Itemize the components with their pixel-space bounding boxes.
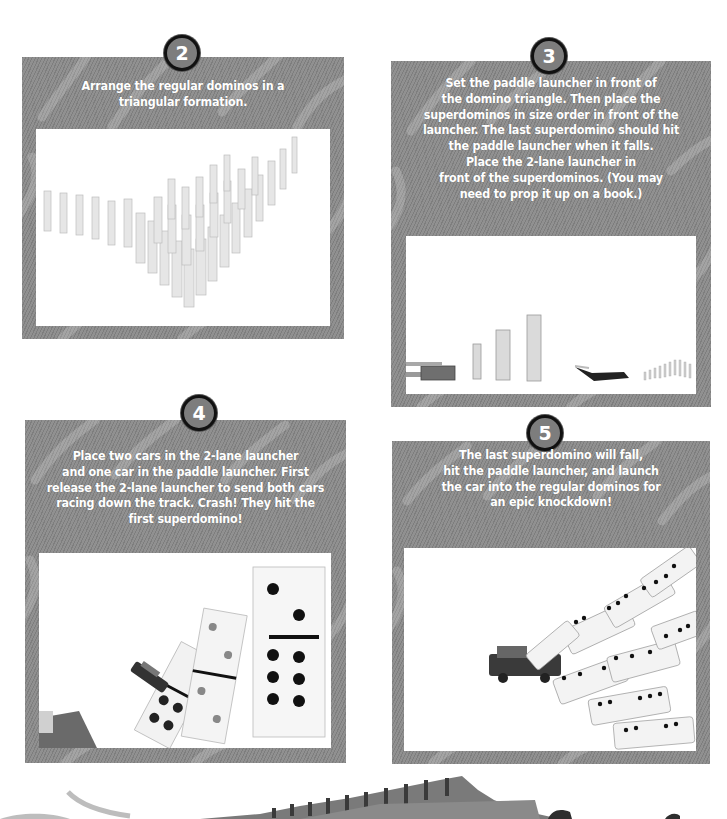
step-5-number-badge: 5 xyxy=(527,415,563,451)
step-5-line: an epic knockdown! xyxy=(392,494,710,510)
step-4-instructions: Place two cars in the 2-lane launcher an… xyxy=(25,448,346,527)
step-3-line: the domino triangle. Then place the xyxy=(391,91,711,107)
step-2-instructions: Arrange the regular dominos in a triangu… xyxy=(22,78,344,110)
launcher-setup-photo xyxy=(406,236,696,394)
step-3-number-badge: 3 xyxy=(531,38,567,74)
step-3-line: Set the paddle launcher in front of xyxy=(391,75,711,91)
step-4-line: racing down the track. Crash! They hit t… xyxy=(25,495,346,511)
step-3-instructions: Set the paddle launcher in front of the … xyxy=(391,75,711,201)
step-4-panel: 4 Place two cars in the 2-lane launcher … xyxy=(25,420,346,763)
step-5-instructions: The last superdomino will fall, hit the … xyxy=(392,447,710,510)
step-2-line: Arrange the regular dominos in a xyxy=(22,78,344,94)
step-4-line: first superdomino! xyxy=(25,511,346,527)
step-5-line: The last superdomino will fall, xyxy=(392,447,710,463)
step-2-number-badge: 2 xyxy=(164,35,200,71)
step-3-line: the paddle launcher when it falls. xyxy=(391,138,711,154)
step-4-line: Place two cars in the 2-lane launcher xyxy=(25,448,346,464)
step-4-line: and one car in the paddle launcher. Firs… xyxy=(25,464,346,480)
epic-knockdown-photo xyxy=(404,548,696,751)
car-hits-superdomino-photo xyxy=(39,553,331,748)
step-3-line: Place the 2-lane launcher in xyxy=(391,154,711,170)
step-2-panel: 2 Arrange the regular dominos in a trian… xyxy=(22,57,344,339)
step-4-number-badge: 4 xyxy=(181,395,217,431)
dominos-triangle-photo xyxy=(36,129,330,326)
step-3-line: superdominos in size order in front of t… xyxy=(391,107,711,123)
step-3-line: launcher. The last superdomino should hi… xyxy=(391,122,711,138)
step-3-panel: 3 Set the paddle launcher in front of th… xyxy=(391,61,711,407)
step-3-line: front of the superdominos. (You may xyxy=(391,170,711,186)
step-5-panel: 5 The last superdomino will fall, hit th… xyxy=(392,441,710,764)
step-3-line: need to prop it up on a book.) xyxy=(391,186,711,202)
step-5-line: the car into the regular dominos for xyxy=(392,479,710,495)
step-2-line: triangular formation. xyxy=(22,94,344,110)
bottom-decorative-art xyxy=(0,770,727,819)
step-4-line: release the 2-lane launcher to send both… xyxy=(25,480,346,496)
step-5-line: hit the paddle launcher, and launch xyxy=(392,463,710,479)
